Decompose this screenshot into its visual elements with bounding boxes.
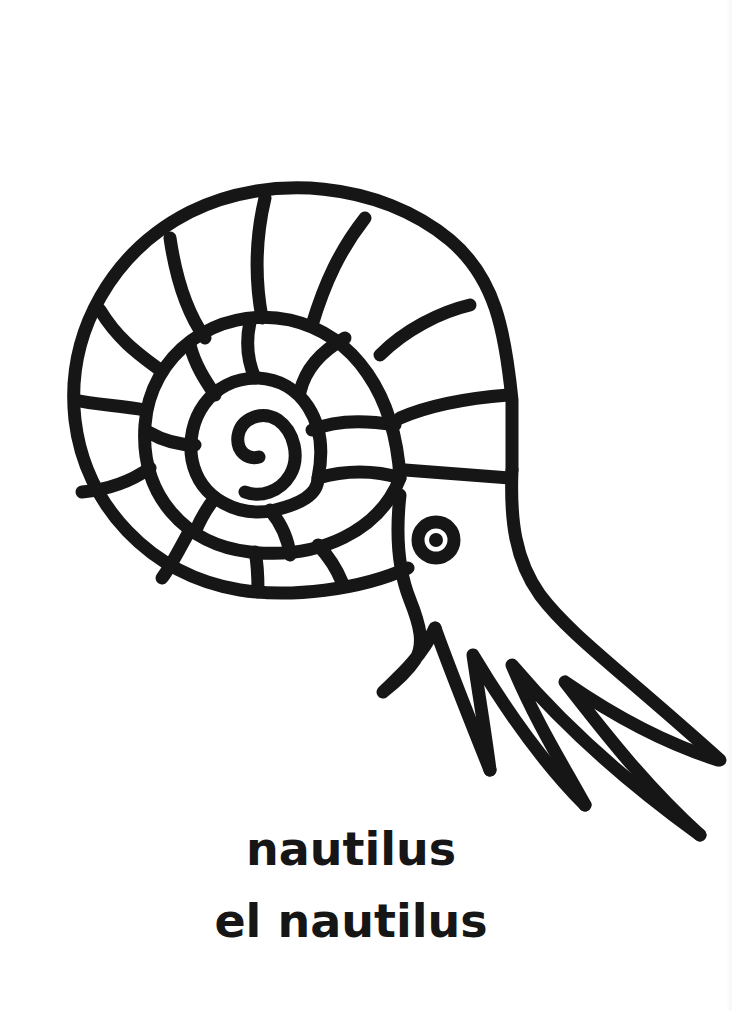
coloring-page: nautilus el nautilus xyxy=(0,0,732,1011)
shell-center-curl xyxy=(238,416,295,495)
eye-pupil xyxy=(429,533,443,547)
shell-rib xyxy=(405,470,510,478)
shell-rib xyxy=(195,498,215,532)
tentacle xyxy=(565,682,718,835)
caption-spanish: el nautilus xyxy=(0,898,717,944)
shell-rib xyxy=(312,422,395,430)
shell-rib xyxy=(100,310,160,370)
shell-rib xyxy=(170,238,205,338)
shell-rib xyxy=(248,322,255,378)
caption-english: nautilus xyxy=(0,826,717,872)
nautilus-body xyxy=(383,470,720,835)
shell-rib xyxy=(75,400,145,410)
shell-rib xyxy=(312,218,365,325)
shell-rib xyxy=(318,545,342,582)
shell-rib xyxy=(380,305,470,355)
shell-rib xyxy=(190,345,215,395)
shell-rib xyxy=(255,552,258,592)
shell-rib xyxy=(400,395,508,418)
shell-rib xyxy=(318,472,400,478)
shell-rib xyxy=(257,198,265,318)
page-edge-shadow xyxy=(726,0,732,1011)
shell-rib xyxy=(300,338,345,392)
